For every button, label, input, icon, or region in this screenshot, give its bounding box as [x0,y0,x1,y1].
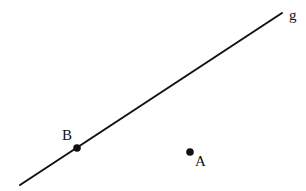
line-g-label: g [289,7,297,23]
point-b [73,144,81,152]
line-g [20,13,282,185]
point-a-label: A [195,153,206,169]
point-b-label: B [62,127,72,143]
point-a [186,148,194,156]
geometry-diagram: g B A [0,0,306,191]
